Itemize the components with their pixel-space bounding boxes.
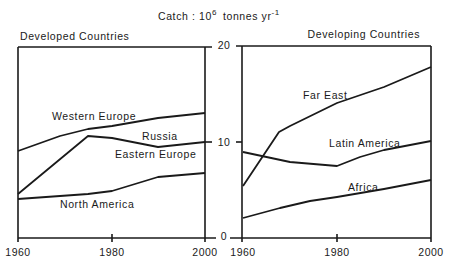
label-eastern-europe: Eastern Europe [115,148,196,160]
series-africa [243,180,431,218]
left-panel-title: Developed Countries [20,30,129,42]
label-africa: Africa [348,181,378,193]
right-panel-title: Developing Countries [308,28,420,40]
y-tick-10: 10 [218,136,231,148]
label-russia: Russia [142,130,178,142]
y-tick-0: 0 [221,230,227,242]
chart-title: Catch : 106tonnes yr-1 [158,8,280,22]
y-tick-20: 20 [218,39,231,51]
left-x-tick-1980: 1980 [99,246,124,258]
label-western-europe: Western Europe [52,110,136,122]
label-far-east: Far East [303,89,347,101]
left-x-tick-2000: 2000 [192,246,217,258]
label-north-america: North America [60,198,134,210]
left-x-tick-1960: 1960 [5,246,30,258]
series-russia-eastern-europe [18,136,205,194]
right-x-tick-1980: 1980 [324,246,349,258]
catch-chart: Catch : 106tonnes yr-1 Developed Countri… [0,0,449,270]
label-latin-america: Latin America [329,137,400,149]
series-far-east [243,67,431,186]
right-x-tick-1960: 1960 [230,246,255,258]
right-x-tick-2000: 2000 [418,246,443,258]
series-north-america [18,173,205,199]
